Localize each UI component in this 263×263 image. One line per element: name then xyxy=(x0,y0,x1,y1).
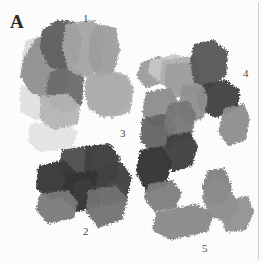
cluster-label-1: 1 xyxy=(83,13,89,24)
right-border-rule xyxy=(258,2,259,260)
patch-montage-canvas xyxy=(0,0,263,263)
panel-letter-label: A xyxy=(10,12,24,31)
cluster-label-5: 5 xyxy=(202,243,208,254)
paper-grain-overlay xyxy=(0,0,263,263)
cluster-label-4: 4 xyxy=(243,68,249,79)
cluster-label-3: 3 xyxy=(120,128,126,139)
figure-panel-a: A 1 4 3 2 5 xyxy=(0,0,263,263)
cluster-label-2: 2 xyxy=(83,226,89,237)
